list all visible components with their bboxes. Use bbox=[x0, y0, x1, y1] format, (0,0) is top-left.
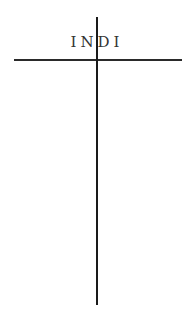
diagram-title: INDI bbox=[0, 33, 187, 51]
t-chart-diagram: INDI bbox=[0, 0, 187, 318]
horizontal-divider bbox=[14, 59, 182, 61]
vertical-divider bbox=[96, 17, 98, 305]
